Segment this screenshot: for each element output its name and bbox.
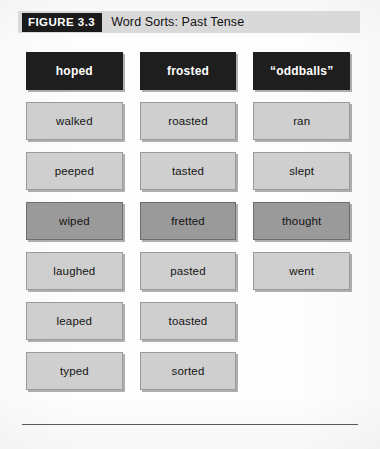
word-cell: walked (26, 102, 123, 140)
word-row: peeped tasted slept (26, 152, 350, 190)
word-cell: fretted (140, 202, 237, 240)
word-cell: went (253, 252, 350, 290)
word-cell: roasted (140, 102, 237, 140)
word-sort-grid: hoped frosted “oddballs” walked roasted … (26, 52, 350, 402)
bottom-divider (22, 424, 358, 425)
word-cell-empty (253, 352, 350, 390)
word-cell: thought (253, 202, 350, 240)
word-cell: wiped (26, 202, 123, 240)
word-cell: toasted (140, 302, 237, 340)
word-cell: ran (253, 102, 350, 140)
word-cell: laughed (26, 252, 123, 290)
word-row: walked roasted ran (26, 102, 350, 140)
figure-page: FIGURE 3.3 Word Sorts: Past Tense hoped … (0, 0, 380, 449)
word-cell: tasted (140, 152, 237, 190)
column-header-row: hoped frosted “oddballs” (26, 52, 350, 90)
column-header-hoped: hoped (26, 52, 123, 90)
word-row: laughed pasted went (26, 252, 350, 290)
column-header-oddballs: “oddballs” (253, 52, 350, 90)
word-cell: peeped (26, 152, 123, 190)
word-cell: pasted (140, 252, 237, 290)
word-row: wiped fretted thought (26, 202, 350, 240)
word-cell: sorted (140, 352, 237, 390)
word-cell: slept (253, 152, 350, 190)
word-cell: leaped (26, 302, 123, 340)
word-cell: typed (26, 352, 123, 390)
figure-number-badge: FIGURE 3.3 (22, 13, 102, 32)
word-row: typed sorted (26, 352, 350, 390)
column-header-frosted: frosted (140, 52, 237, 90)
figure-header-bar: FIGURE 3.3 Word Sorts: Past Tense (18, 11, 360, 33)
figure-title: Word Sorts: Past Tense (111, 15, 244, 29)
word-row: leaped toasted (26, 302, 350, 340)
word-cell-empty (253, 302, 350, 340)
